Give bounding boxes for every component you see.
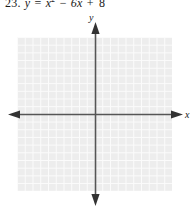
coordinate-graph: y x [0,0,191,208]
y-axis-arrow-down [91,194,99,206]
graph-axes [0,0,191,208]
x-axis-arrow-left [8,110,20,118]
y-axis-arrow-up [91,22,99,34]
x-axis-label: x [185,109,189,120]
y-axis-label: y [89,12,93,23]
x-axis-arrow-right [171,110,183,118]
